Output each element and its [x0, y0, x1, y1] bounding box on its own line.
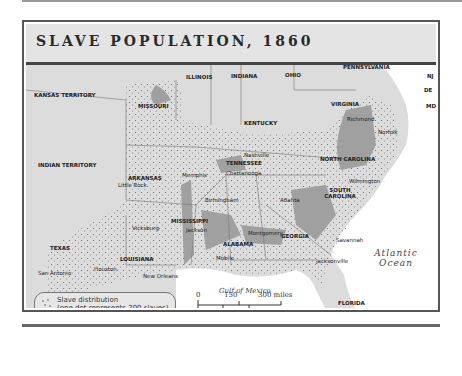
- city-wilmington: Wilmington: [349, 178, 380, 184]
- region-md: MD: [426, 103, 436, 109]
- region-tennessee: TENNESSEE: [226, 160, 262, 166]
- city-montgomery: Montgomery: [248, 230, 283, 236]
- city-chattanooga: Chattanooga: [226, 170, 261, 176]
- region-indian-territory: INDIAN TERRITORY: [38, 162, 96, 168]
- scale-miles-300: 300 miles: [258, 291, 292, 299]
- scale-line: [197, 300, 287, 308]
- city-vicksburg: Vicksburg: [132, 225, 159, 231]
- region-missouri: MISSOURI: [138, 103, 169, 109]
- scale-miles-150: 150: [224, 291, 237, 299]
- region-texas: TEXAS: [50, 245, 70, 251]
- scale-bar: 0 150 300 miles 0 150 300 kilometers: [196, 291, 326, 308]
- figure-title: SLAVE POPULATION, 1860: [36, 33, 313, 49]
- top-rule: [22, 0, 462, 2]
- city-jacksonville: Jacksonville: [316, 258, 348, 264]
- bottom-rule: [22, 324, 440, 327]
- figure-header: SLAVE POPULATION, 1860: [26, 24, 436, 65]
- city-birmingham: Birmingham: [205, 197, 239, 203]
- city-memphis: Memphis: [182, 172, 207, 178]
- map-legend: Slave distribution (one dot represents 2…: [34, 292, 176, 308]
- legend-line-1: Slave distribution: [57, 296, 168, 304]
- region-georgia: GEORGIA: [281, 233, 309, 239]
- dot-symbol-icon: [40, 298, 54, 308]
- map-graphic: [26, 65, 436, 308]
- region-mississippi: MISSISSIPPI: [171, 218, 208, 224]
- region-illinois: ILLINOIS: [186, 74, 212, 80]
- region-south-carolina: SOUTH CAROLINA: [320, 187, 360, 199]
- region-de: DE: [424, 87, 432, 93]
- region-louisiana: LOUISIANA: [120, 256, 154, 262]
- city-houston: Houston: [94, 266, 117, 272]
- city-norfolk: Norfolk: [378, 129, 398, 135]
- region-ohio: OHIO: [285, 72, 301, 78]
- city-savannah: Savannah: [336, 237, 363, 243]
- region-virginia: VIRGINIA: [331, 101, 359, 107]
- city-atlanta: Atlanta: [280, 197, 300, 203]
- region-indiana: INDIANA: [231, 73, 257, 79]
- region-kentucky: KENTUCKY: [244, 120, 277, 126]
- city-new-orleans: New Orleans: [143, 273, 178, 279]
- region-north-carolina: NORTH CAROLINA: [320, 156, 375, 162]
- city-richmond: Richmond: [347, 116, 375, 122]
- city-jackson: Jackson: [186, 227, 207, 233]
- region-arkansas: ARKANSAS: [128, 175, 162, 181]
- region-nj: NJ: [427, 73, 434, 79]
- region-pennsylvania: PENNSYLVANIA: [343, 65, 390, 70]
- label-atlantic-ocean: Atlantic Ocean: [366, 248, 426, 268]
- legend-text: Slave distribution (one dot represents 2…: [57, 296, 168, 308]
- map-area: KANSAS TERRITORY MISSOURI ILLINOIS INDIA…: [26, 65, 436, 308]
- map-figure: SLAVE POPULATION, 1860: [22, 20, 440, 312]
- region-alabama: ALABAMA: [223, 241, 253, 247]
- region-kansas: KANSAS TERRITORY: [34, 92, 96, 98]
- city-little-rock: Little Rock: [118, 182, 147, 188]
- city-nashville: Nashville: [244, 152, 269, 158]
- legend-line-2: (one dot represents 200 slaves): [57, 304, 168, 308]
- city-mobile: Mobile: [216, 255, 234, 261]
- region-florida: FLORIDA: [338, 300, 365, 306]
- city-san-antonio: San Antonio: [38, 270, 71, 276]
- scale-miles-0: 0: [196, 291, 200, 299]
